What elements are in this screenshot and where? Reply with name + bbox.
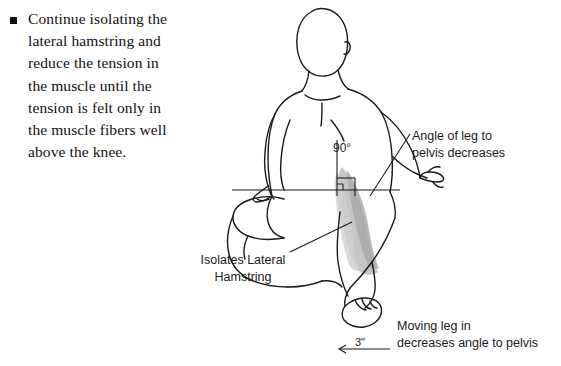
label-movement-distance: 3" [355, 336, 365, 348]
figure-canvas: Continue isolating the lateral hamstring… [0, 0, 561, 366]
bullet-text: Continue isolating the lateral hamstring… [28, 8, 180, 163]
square-bullet-icon [10, 17, 17, 24]
annotation-isolates-lateral-hamstring: Isolates Lateral Hamstring [168, 252, 318, 285]
label-knee-angle: 90° [333, 141, 351, 155]
lateral-hamstring-shading [335, 167, 379, 275]
annotation-angle-of-leg-to-pelvis: Angle of leg to pelvis decreases [412, 128, 561, 161]
annotation-moving-leg-decreases-angle: Moving leg in decreases angle to pelvis [397, 318, 557, 351]
